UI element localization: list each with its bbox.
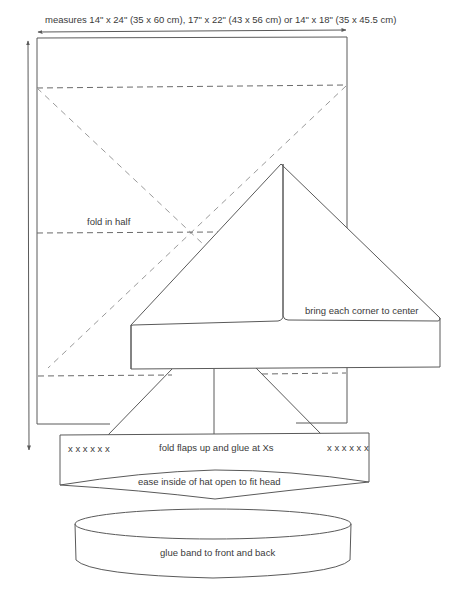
head-band-cylinder	[75, 509, 351, 578]
hat-folding-diagram: measures 14" x 24" (35 x 60 cm), 17" x 2…	[0, 0, 465, 597]
width-arrow	[38, 30, 346, 32]
step5-label: glue band to front and back	[160, 547, 275, 558]
lower-fold-line-right	[262, 373, 346, 374]
glue-marks-right: x x x x x x	[327, 442, 369, 453]
step1-label: fold in half	[87, 216, 131, 227]
hat-flaps	[108, 368, 321, 435]
band-bottom-curve	[76, 560, 350, 578]
dimension-label: measures 14" x 24" (35 x 60 cm), 17" x 2…	[45, 14, 396, 25]
band-top-ellipse	[75, 509, 351, 539]
folded-triangle	[131, 164, 440, 369]
glue-marks-left: x x x x x x	[68, 443, 110, 454]
lower-fold-line-left	[38, 375, 172, 376]
step4-label: ease inside of hat open to fit head	[138, 476, 281, 487]
step2-label: bring each corner to center	[305, 305, 419, 316]
step3-label: fold flaps up and glue at Xs	[159, 442, 274, 453]
top-fold-line	[37, 85, 346, 88]
height-arrow	[28, 41, 29, 450]
